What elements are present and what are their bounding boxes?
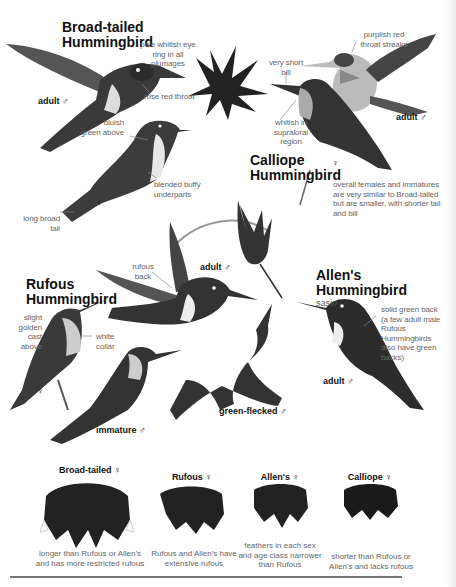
rufous-adult-male-tag: adult ♂ [200, 262, 231, 272]
tail-fan-broad-tailed [40, 483, 134, 548]
allens-title-line2: Hummingbird [316, 283, 407, 298]
broad-tailed-throat-note: rose red throat [144, 92, 195, 102]
page-edge-shadow [446, 0, 456, 587]
note-line: above [4, 342, 42, 352]
note-line: underparts [154, 190, 201, 200]
hanging-flower-illustration [237, 200, 282, 298]
tail-title-allens: Allen's ♀ [240, 472, 320, 482]
note-line: bluish [80, 118, 124, 128]
note-line: but are smaller, with shorter tail [333, 199, 440, 209]
rufous-title-line2: Hummingbird [26, 292, 117, 307]
rufous-title: Rufous Hummingbird [26, 277, 117, 307]
note-line: and bill [333, 209, 440, 219]
calliope-throat-note: purplish red throat streaks [354, 30, 414, 49]
note-line: region [266, 137, 316, 147]
note-line: (a few adult male [381, 315, 456, 325]
note-line: collar [96, 342, 115, 352]
allens-subtitle: sasin [316, 298, 337, 308]
note-line: white [96, 332, 115, 342]
tail-note-allens: feathers in each sex and age class narro… [232, 541, 328, 570]
note-line: long broad [10, 214, 60, 224]
tail-note-calliope: shorter than Rufous or Allen's and lacks… [326, 552, 416, 571]
calliope-female-tag: ♀ [332, 158, 339, 168]
allens-title-line1: Allen's [316, 268, 407, 283]
broad-tailed-title-line1: Broad-tailed [62, 20, 153, 35]
note-line: than Rufous [232, 560, 328, 570]
rufous-golden-note: slight golden cast above [4, 313, 42, 351]
broad-tailed-eye-ring-note: pale whitish eye ring in all plumages [138, 40, 198, 69]
note-line: slight [4, 313, 42, 323]
note-line: and age class narrower [232, 551, 328, 561]
rufous-adult-male-illustration [96, 222, 258, 325]
broad-tailed-tail-note: long broad tail [10, 214, 60, 233]
note-line: supraloral [266, 128, 316, 138]
tail-fan-calliope [344, 484, 398, 520]
note-line: golden cast [4, 323, 42, 342]
tail-title-rufous: Rufous ♀ [152, 472, 232, 482]
calliope-supraloral-note: whitish in supraloral region [266, 118, 316, 147]
broad-tailed-female-tag: ♀ [96, 198, 103, 208]
rufous-immature-male-tag: immature ♂ [96, 425, 146, 435]
calliope-overall-note: overall females and immatures are very s… [333, 180, 440, 218]
tail-fan-allens [254, 484, 308, 528]
tail-title-calliope: Calliope ♀ [330, 472, 410, 482]
note-line: ring in all [138, 50, 198, 60]
note-line: are very similar to Broad-tailed [333, 190, 440, 200]
note-line: also have green backs) [381, 343, 456, 362]
allens-title: Allen's Hummingbird [316, 268, 407, 298]
note-line: Rufous and Allen's have [144, 549, 244, 559]
tail-note-broad-tailed: longer than Rufous or Allen's and has mo… [30, 549, 150, 568]
tail-note-rufous: Rufous and Allen's have extensive rufous [144, 549, 244, 568]
note-line: and has more restricted rufous [30, 559, 150, 569]
calliope-adult-male-tag: adult ♂ [396, 112, 427, 122]
rufous-back-note: rufous back [128, 262, 158, 281]
note-line: back [128, 272, 158, 282]
note-line: extensive rufous [144, 559, 244, 569]
note-line: feathers in each sex [232, 541, 328, 551]
note-line: throat streaks [354, 40, 414, 50]
note-line: overall females and immatures [333, 180, 440, 190]
note-line: green above [80, 128, 124, 138]
note-line: whitish in [266, 118, 316, 128]
note-line: very short [264, 58, 308, 68]
note-line: purplish red [354, 30, 414, 40]
tail-title-broad-tailed: Broad-tailed ♀ [40, 465, 140, 475]
tail-fan-rufous [160, 487, 224, 535]
calliope-bill-note: very short bill [264, 58, 308, 77]
broad-tailed-adult-male-tag: adult ♂ [38, 96, 69, 106]
note-line: Rufous Hummingbirds [381, 324, 456, 343]
note-line: bill [264, 68, 308, 78]
calliope-title-line1: Calliope [250, 153, 341, 168]
broad-tailed-above-note: bluish green above [80, 118, 124, 137]
note-line: Allen's and lacks rufous [326, 562, 416, 572]
calliope-title-line2: Hummingbird [250, 168, 341, 183]
broad-tailed-underparts-note: blended buffy underparts [154, 180, 201, 199]
flower-illustration [188, 46, 268, 120]
note-line: plumages [138, 59, 198, 69]
rufous-title-line1: Rufous [26, 277, 117, 292]
note-line: blended buffy [154, 180, 201, 190]
rufous-female-tag: ♀ [37, 386, 44, 396]
allens-adult-male-tag: adult ♂ [323, 376, 354, 386]
note-line: longer than Rufous or Allen's [30, 549, 150, 559]
note-line: solid green back [381, 305, 456, 315]
rufous-collar-note: white collar [96, 332, 115, 351]
note-line: pale whitish eye [138, 40, 198, 50]
rufous-green-flecked-tag: green-flecked ♂ [219, 406, 287, 416]
calliope-title: Calliope Hummingbird [250, 153, 341, 183]
note-line: rufous [128, 262, 158, 272]
allens-back-note: solid green back (a few adult male Rufou… [381, 305, 456, 362]
note-line: tail [10, 224, 60, 234]
bottom-rule [10, 576, 402, 578]
note-line: shorter than Rufous or [326, 552, 416, 562]
